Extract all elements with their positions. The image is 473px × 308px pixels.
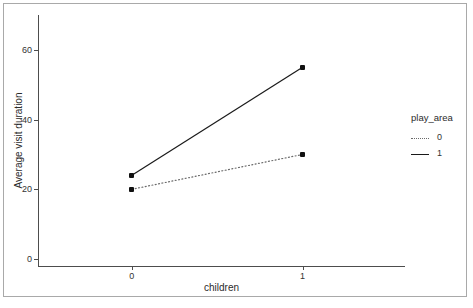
legend-items: 01 [411, 130, 467, 162]
figure-canvas: 0204060 01 children Average visit durati… [0, 0, 473, 308]
legend-entry-1[interactable]: 1 [411, 146, 467, 162]
x-tick-label: 1 [300, 272, 305, 281]
plot-panel: 0204060 01 [38, 15, 405, 266]
legend-label: 1 [437, 149, 442, 158]
legend-key-solid-icon [411, 149, 429, 159]
legend-entry-0[interactable]: 0 [411, 130, 467, 146]
data-point [300, 152, 305, 157]
legend: play_area 01 [411, 113, 467, 162]
x-tick-mark [303, 266, 304, 270]
data-point [129, 187, 134, 192]
x-axis-title: children [38, 283, 405, 293]
legend-key-dotted-icon [411, 133, 429, 143]
x-axis-line [38, 266, 405, 267]
x-tick-mark [132, 266, 133, 270]
data-point [129, 173, 134, 178]
data-point [300, 65, 305, 70]
legend-label: 0 [437, 133, 442, 142]
data-markers [38, 15, 405, 266]
x-tick-label: 0 [129, 272, 134, 281]
y-axis-title: Average visit duration [14, 15, 28, 266]
legend-title: play_area [411, 113, 467, 123]
